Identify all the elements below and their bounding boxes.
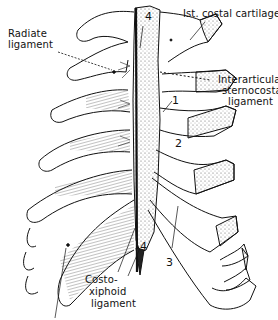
left-first-rib xyxy=(77,11,134,42)
right-costal-margin xyxy=(148,210,256,309)
first-costal-cartilage-label: Ist. costal cartilage xyxy=(183,8,278,19)
radiate-ligament-label: Radiate ligament xyxy=(8,28,53,50)
label-number-3: 3 xyxy=(166,256,173,269)
label-number-4-bottom: 4 xyxy=(140,240,147,253)
label-number-1: 1 xyxy=(172,94,179,107)
interarticular-sternocostal-ligament-label: Interarticular sternocostal ligament xyxy=(218,74,278,107)
costoxiphoid-ligament-label: Costo- xiphoid ligament xyxy=(85,274,136,310)
label-number-4-top: 4 xyxy=(145,10,152,23)
label-number-2: 2 xyxy=(175,137,182,150)
